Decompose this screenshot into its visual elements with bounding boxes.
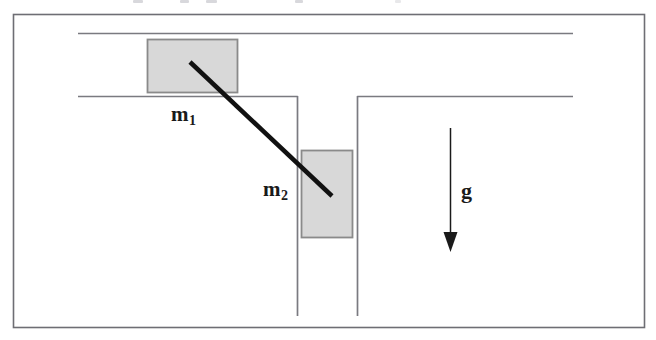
label-m1-subscript: 1 bbox=[189, 113, 197, 128]
physics-diagram-figure: m1 m2 g bbox=[0, 0, 656, 340]
label-m2-base: m bbox=[263, 177, 281, 201]
diagram-canvas bbox=[0, 0, 656, 340]
label-gravity: g bbox=[461, 180, 472, 202]
label-m1: m1 bbox=[171, 104, 196, 128]
label-m2-subscript: 2 bbox=[281, 188, 289, 203]
label-m2: m2 bbox=[263, 179, 288, 203]
label-m1-base: m bbox=[171, 102, 189, 126]
